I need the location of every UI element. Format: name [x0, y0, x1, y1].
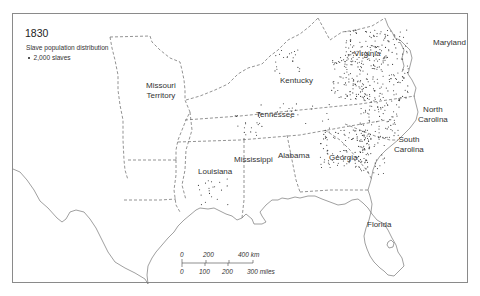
legend-item: 2,000 slaves: [26, 54, 71, 61]
scale-km-0: 0: [180, 251, 184, 258]
dot-symbol-icon: [28, 57, 30, 59]
scale-bar: [182, 259, 253, 267]
region-label-louisiana: Louisiana: [198, 167, 232, 177]
legend-item-label: 2,000 slaves: [34, 54, 71, 61]
legend-title: Slave population distribution: [26, 44, 108, 51]
scale-km-200: 200: [203, 251, 214, 258]
region-label-virginia: Virginia: [354, 49, 381, 59]
region-label-kentucky: Kentucky: [280, 76, 313, 86]
region-label-north-carolina: NorthCarolina: [418, 105, 448, 124]
map-title: 1830: [25, 27, 48, 39]
region-label-maryland: Maryland: [433, 38, 466, 48]
scale-mi-200: 200: [222, 268, 233, 275]
region-label-missouri-territory: MissouriTerritory: [146, 81, 176, 100]
region-label-georgia: Georgia: [329, 153, 357, 163]
region-label-south-carolina: SouthCarolina: [394, 135, 424, 154]
scale-mi-0: 0: [180, 268, 184, 275]
scale-km-400: 400 km: [238, 251, 259, 258]
scale-mi-300: 300 miles: [247, 268, 275, 275]
region-label-florida: Florida: [367, 220, 391, 230]
scale-mi-100: 100: [199, 268, 210, 275]
region-label-tennessee: Tennessee: [256, 110, 295, 120]
region-label-mississippi: Mississippi: [234, 155, 273, 165]
region-label-alabama: Alabama: [278, 151, 310, 161]
